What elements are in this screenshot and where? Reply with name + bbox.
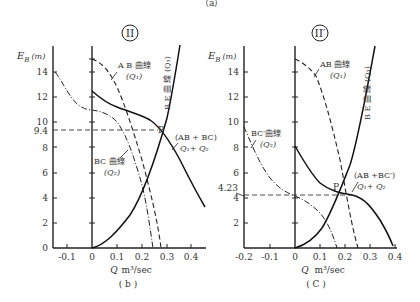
sum-sub-label: Q₁+ Q₂ xyxy=(180,144,209,153)
svg-text:6: 6 xyxy=(233,168,239,178)
sum-label: (AB + BC) xyxy=(175,133,217,142)
panel-ii-prime: II′ EB(m) 2 4 6 8 10 12 14 4.23 xyxy=(207,25,402,289)
svg-text:0.4: 0.4 xyxy=(184,252,199,262)
be-label: B E 曲 線 (Q₃) xyxy=(362,66,372,120)
panel-caption: ( b ) xyxy=(119,279,138,289)
y-axis-label: EB(m) xyxy=(16,50,45,64)
ab-leader xyxy=(111,72,117,80)
svg-text:8: 8 xyxy=(42,143,48,153)
y-axis-label: EB(m) xyxy=(207,50,236,64)
svg-text:8: 8 xyxy=(233,143,239,153)
point-p-label: P xyxy=(333,182,339,192)
point-p-label: P xyxy=(158,125,164,135)
svg-text:2: 2 xyxy=(42,218,48,228)
bc-sub-label: (Q₂) xyxy=(260,140,276,149)
sum-sub-label: Q₁+ Q₂ xyxy=(357,182,386,191)
svg-text:0.1: 0.1 xyxy=(110,252,124,262)
x-axis-label: Qm³/sec xyxy=(301,265,345,275)
be-label: B E 曲 線 (Q₃) xyxy=(162,56,172,110)
panel-ii: II EB(m) 0 2 4 6 8 10 12 14 9.4 xyxy=(16,25,217,289)
bc-prime-curve xyxy=(244,127,337,248)
svg-text:0.1: 0.1 xyxy=(313,252,327,262)
ab-sub-label: (Q₁) xyxy=(330,71,346,80)
panel-caption: ( C ) xyxy=(306,279,326,289)
ab-label: AB 曲線 xyxy=(319,59,350,69)
svg-text:14: 14 xyxy=(228,67,240,77)
y-marker-label: 9.4 xyxy=(34,126,49,136)
panel-title: II′ xyxy=(314,27,326,40)
chart-canvas: （a） II EB(m) 0 2 4 6 8 10 12 14 9.4 xyxy=(0,0,420,302)
y-tick-labels: 2 4 6 8 10 12 14 xyxy=(228,67,240,228)
y-marker-label: 4.23 xyxy=(218,183,238,193)
bc-leader xyxy=(251,140,256,148)
sum-curve xyxy=(295,146,393,246)
sum-label: (AB +BC′) xyxy=(354,171,395,180)
svg-text:0: 0 xyxy=(42,243,48,253)
svg-text:12: 12 xyxy=(228,92,239,102)
svg-text:0: 0 xyxy=(89,252,95,262)
x-axis-label: Qm³/sec xyxy=(110,265,152,275)
y-tick-marks xyxy=(244,72,395,248)
x-tick-labels: -0.1 0 0.1 0.2 0.3 0.4 xyxy=(58,252,198,262)
svg-text:10: 10 xyxy=(228,117,240,127)
y-tick-labels: 0 2 4 6 8 10 12 14 xyxy=(37,67,49,253)
svg-text:4: 4 xyxy=(42,193,48,203)
ab-label: A B 曲線 xyxy=(117,60,151,70)
svg-text:0.3: 0.3 xyxy=(160,252,175,262)
bc-sub-label: (Q₂) xyxy=(104,168,120,177)
svg-text:-0.2: -0.2 xyxy=(235,252,252,262)
svg-text:0.2: 0.2 xyxy=(338,252,352,262)
svg-text:2: 2 xyxy=(233,218,239,228)
panel-title: II xyxy=(126,27,135,40)
svg-text:12: 12 xyxy=(37,92,48,102)
svg-text:0.3: 0.3 xyxy=(363,252,378,262)
ab-sub-label: (Q₁) xyxy=(126,72,142,81)
svg-text:-0.1: -0.1 xyxy=(58,252,75,262)
svg-text:0.2: 0.2 xyxy=(135,252,149,262)
svg-text:14: 14 xyxy=(37,67,49,77)
svg-text:4: 4 xyxy=(233,193,239,203)
svg-text:6: 6 xyxy=(42,168,48,178)
svg-text:0: 0 xyxy=(292,252,298,262)
svg-text:-0.1: -0.1 xyxy=(261,252,278,262)
top-fragment: （a） xyxy=(200,0,223,8)
bc-prime-label: BC′曲線 xyxy=(251,128,281,138)
svg-text:0.4: 0.4 xyxy=(388,252,403,262)
x-tick-labels: -0.2 -0.1 0 0.1 0.2 0.3 0.4 xyxy=(235,252,402,262)
